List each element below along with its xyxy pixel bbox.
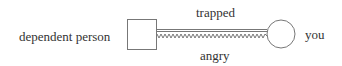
- trapped-label: trapped: [196, 6, 235, 19]
- right-node-label: you: [305, 28, 325, 41]
- angry-zigzag: [157, 34, 267, 38]
- relationship-graphic: [0, 0, 342, 66]
- dependent-person-node: [128, 20, 157, 50]
- angry-label: angry: [200, 49, 230, 62]
- you-node: [267, 20, 295, 48]
